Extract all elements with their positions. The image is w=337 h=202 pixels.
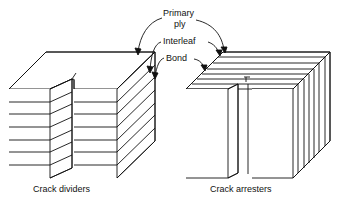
crack-arresters-block — [186, 52, 330, 178]
interleaf-label: Interleaf — [163, 36, 196, 46]
diagram-canvas — [0, 0, 337, 202]
bond-label: Bond — [166, 53, 187, 63]
primary-ply-label-line2: ply — [174, 19, 186, 29]
crack-dividers-block — [9, 52, 155, 178]
primary-ply-label: Primary — [163, 8, 194, 18]
crack-dividers-caption: Crack dividers — [33, 184, 90, 194]
crack-arresters-caption: Crack arresters — [210, 184, 272, 194]
